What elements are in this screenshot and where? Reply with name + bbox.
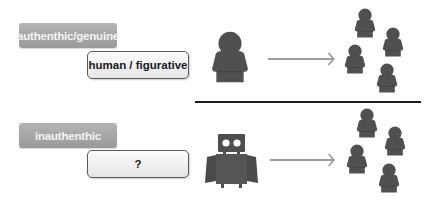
person-icon bbox=[209, 30, 251, 84]
source-label-human: human / figurative bbox=[87, 51, 189, 79]
person-icon bbox=[381, 26, 405, 58]
person-icon bbox=[383, 125, 407, 157]
person-icon bbox=[353, 7, 377, 39]
category-label-inauthentic: inauthenthic bbox=[19, 123, 117, 148]
person-icon bbox=[377, 162, 401, 194]
person-icon bbox=[345, 143, 369, 175]
person-icon bbox=[375, 62, 399, 94]
category-label-text: inauthenthic bbox=[35, 130, 101, 142]
source-label-unknown: ? bbox=[87, 150, 189, 178]
section-divider bbox=[195, 101, 421, 103]
source-label-text: ? bbox=[134, 158, 141, 170]
person-icon bbox=[343, 43, 367, 75]
robot-icon bbox=[204, 133, 258, 189]
category-label-text: authenthic/genuine bbox=[17, 30, 119, 42]
category-label-authentic: authenthic/genuine bbox=[19, 23, 117, 48]
arrow-right-icon bbox=[270, 153, 336, 167]
person-icon bbox=[355, 107, 379, 139]
source-label-text: human / figurative bbox=[88, 59, 187, 71]
arrow-right-icon bbox=[268, 52, 336, 66]
